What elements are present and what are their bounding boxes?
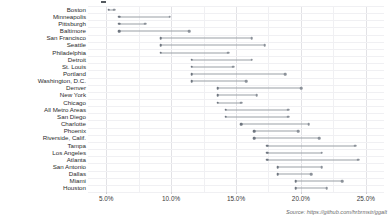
dumbbell-dot-start <box>266 159 269 162</box>
dumbbell-dot-end <box>354 144 357 147</box>
dumbbell-segment <box>278 166 322 167</box>
dumbbell-segment <box>218 102 241 103</box>
gridline-horizontal <box>88 149 384 150</box>
dumbbell-dot-start <box>107 8 110 11</box>
gridline-horizontal <box>88 156 384 157</box>
dumbbell-segment <box>192 73 285 74</box>
dumbbell-dot-start <box>118 30 121 33</box>
x-axis-tick-label: 15.0% <box>227 195 245 202</box>
gridline-horizontal <box>88 63 384 64</box>
dumbbell-segment <box>218 88 301 89</box>
gridline-horizontal <box>88 85 384 86</box>
gridline-horizontal <box>88 56 384 57</box>
gridline-horizontal <box>88 99 384 100</box>
dumbbell-chart: BostonMinneapolisPittsburghBaltimoreSan … <box>0 0 391 224</box>
dumbbell-segment <box>161 52 229 53</box>
dumbbell-dot-end <box>245 80 248 83</box>
dumbbell-dot-start <box>266 151 269 154</box>
dumbbell-segment <box>267 152 322 153</box>
gridline-horizontal <box>88 128 384 129</box>
gridline-horizontal <box>88 113 384 114</box>
dumbbell-dot-end <box>232 66 235 69</box>
gridline-horizontal <box>88 13 384 14</box>
dumbbell-segment <box>241 124 309 125</box>
dumbbell-dot-end <box>113 8 116 11</box>
dumbbell-dot-start <box>253 137 256 140</box>
x-axis-tick-mark <box>236 192 237 194</box>
gridline-horizontal <box>88 20 384 21</box>
dumbbell-dot-end <box>341 180 344 183</box>
dumbbell-dot-end <box>320 151 323 154</box>
dumbbell-dot-end <box>250 58 253 61</box>
gridline-horizontal <box>88 49 384 50</box>
dumbbell-dot-end <box>310 173 313 176</box>
gridline-horizontal <box>88 6 384 7</box>
corner-mark <box>101 1 106 3</box>
gridline-horizontal <box>88 185 384 186</box>
dumbbell-dot-end <box>144 23 147 26</box>
dumbbell-segment <box>226 109 288 110</box>
dumbbell-dot-end <box>168 15 171 18</box>
dumbbell-dot-start <box>191 66 194 69</box>
dumbbell-segment <box>119 16 170 17</box>
dumbbell-dot-start <box>159 44 162 47</box>
dumbbell-dot-start <box>253 130 256 133</box>
dumbbell-segment <box>296 181 343 182</box>
plot-panel <box>88 6 384 192</box>
x-axis-tick-label: 20.0% <box>292 195 310 202</box>
dumbbell-segment <box>267 145 355 146</box>
dumbbell-dot-start <box>118 15 121 18</box>
dumbbell-dot-start <box>217 101 220 104</box>
dumbbell-dot-end <box>297 130 300 133</box>
dumbbell-segment <box>192 59 252 60</box>
dumbbell-dot-start <box>224 116 227 119</box>
dumbbell-segment <box>161 45 265 46</box>
dumbbell-segment <box>254 138 319 139</box>
dumbbell-dot-end <box>240 101 243 104</box>
dumbbell-dot-start <box>159 37 162 40</box>
x-axis-tick-mark <box>171 192 172 194</box>
y-axis-label-group: BostonMinneapolisPittsburghBaltimoreSan … <box>0 6 86 192</box>
dumbbell-segment <box>119 31 189 32</box>
dumbbell-dot-start <box>276 166 279 169</box>
dumbbell-segment <box>278 174 312 175</box>
dumbbell-segment <box>218 95 257 96</box>
dumbbell-segment <box>161 38 252 39</box>
gridline-horizontal <box>88 178 384 179</box>
y-axis-label: Houston <box>63 185 86 191</box>
gridline-horizontal <box>88 70 384 71</box>
gridline-horizontal <box>88 142 384 143</box>
dumbbell-segment <box>267 159 358 160</box>
dumbbell-dot-start <box>118 23 121 26</box>
gridline-horizontal <box>88 135 384 136</box>
dumbbell-dot-start <box>276 173 279 176</box>
gridline-horizontal <box>88 92 384 93</box>
dumbbell-dot-start <box>266 144 269 147</box>
dumbbell-dot-start <box>191 73 194 76</box>
dumbbell-dot-end <box>287 116 290 119</box>
dumbbell-dot-start <box>159 51 162 54</box>
dumbbell-dot-start <box>191 58 194 61</box>
dumbbell-dot-end <box>255 94 258 97</box>
dumbbell-dot-end <box>326 187 329 190</box>
dumbbell-segment <box>192 66 234 67</box>
x-axis-tick-mark <box>106 192 107 194</box>
dumbbell-dot-start <box>217 94 220 97</box>
dumbbell-segment <box>119 23 145 24</box>
x-axis-tick-label: 25.0% <box>357 195 375 202</box>
dumbbell-dot-end <box>320 166 323 169</box>
dumbbell-dot-end <box>318 137 321 140</box>
x-axis-tick-mark <box>366 192 367 194</box>
dumbbell-segment <box>192 81 247 82</box>
dumbbell-dot-end <box>300 87 303 90</box>
dumbbell-dot-start <box>240 123 243 126</box>
dumbbell-dot-end <box>227 51 230 54</box>
dumbbell-dot-start <box>294 180 297 183</box>
dumbbell-dot-end <box>188 30 191 33</box>
gridline-horizontal <box>88 35 384 36</box>
x-axis-tick-label: 10.0% <box>162 195 180 202</box>
dumbbell-dot-end <box>287 108 290 111</box>
gridline-horizontal <box>88 78 384 79</box>
dumbbell-dot-end <box>263 44 266 47</box>
x-axis: 5.0%10.0%15.0%20.0%25.0% <box>88 192 384 206</box>
